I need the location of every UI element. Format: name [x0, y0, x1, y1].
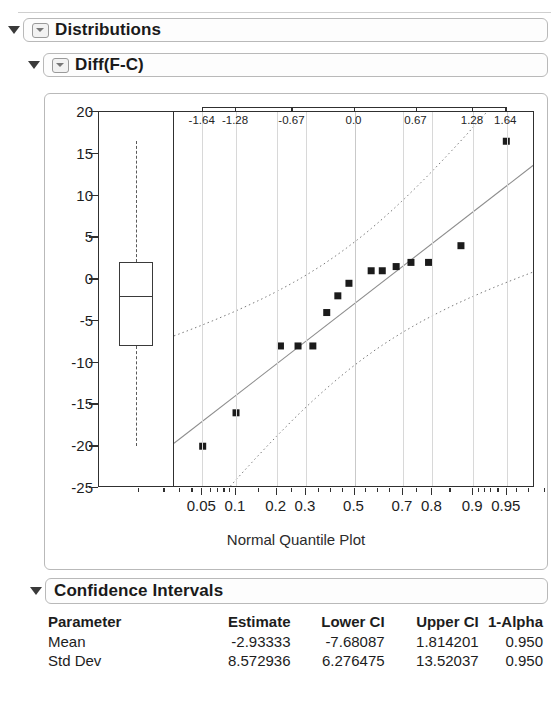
bottom-axis-minor-tick	[210, 488, 211, 492]
data-point[interactable]	[457, 242, 464, 249]
bottom-axis-tick-label: 0.1	[224, 497, 245, 514]
y-axis-tick-mark	[89, 320, 98, 321]
vertical-gridline	[236, 112, 237, 486]
bottom-axis-tick-label: 0.7	[392, 497, 413, 514]
bottom-axis-major-tick	[506, 488, 507, 495]
top-axis-tick-label: 1.64	[494, 114, 516, 126]
y-axis-tick-label: -20	[49, 437, 93, 454]
bottom-axis-minor-tick	[138, 488, 139, 492]
bottom-axis-minor-tick	[478, 488, 479, 492]
y-axis-tick-label: 10	[49, 186, 93, 203]
quantile-scatter-area	[174, 112, 533, 486]
data-point[interactable]	[393, 263, 400, 270]
cell-1-alpha: 0.950	[479, 632, 543, 651]
bottom-axis-minor-tick	[449, 488, 450, 492]
col-1-alpha: 1-Alpha	[479, 612, 543, 632]
col-estimate: Estimate	[197, 612, 291, 632]
cell-lower-ci: 6.276475	[291, 651, 385, 670]
vertical-gridline	[277, 112, 278, 486]
bottom-axis-major-tick	[235, 488, 236, 495]
cell-upper-ci: 1.814201	[385, 632, 479, 651]
y-axis-tick-mark	[89, 278, 98, 279]
bottom-axis-minor-tick	[484, 488, 485, 492]
boxplot-median-line	[119, 296, 153, 297]
top-axis-tick-label: 0.0	[346, 114, 362, 126]
vertical-gridline	[432, 112, 433, 486]
bottom-axis-major-tick	[402, 488, 403, 495]
diff-title-panel[interactable]: Diff(F-C)	[43, 53, 548, 77]
data-point[interactable]	[407, 259, 414, 266]
normal-quantile-top-axis	[142, 101, 520, 111]
bottom-axis-tick-label: 0.95	[491, 497, 520, 514]
red-triangle-menu-icon[interactable]	[52, 58, 69, 73]
data-point[interactable]	[323, 309, 330, 316]
data-point[interactable]	[334, 292, 341, 299]
bottom-axis-minor-tick	[516, 488, 517, 492]
bottom-axis-minor-tick	[291, 488, 292, 492]
top-axis-tick-label: -1.64	[189, 114, 215, 126]
disclosure-triangle-icon[interactable]	[8, 26, 20, 34]
y-axis-tick-mark	[89, 487, 98, 488]
probability-bottom-axis: 0.050.10.20.30.50.70.80.90.95	[173, 488, 534, 518]
outline-node-confidence-intervals[interactable]: Confidence Intervals	[30, 578, 548, 604]
bottom-axis-minor-tick	[342, 488, 343, 492]
vertical-gridline	[355, 112, 356, 486]
vertical-gridline	[202, 112, 203, 486]
data-point[interactable]	[379, 267, 386, 274]
disclosure-triangle-icon[interactable]	[28, 61, 40, 69]
bottom-axis-minor-tick	[389, 488, 390, 492]
boxplot-upper-whisker	[136, 141, 137, 262]
boxplot	[99, 112, 173, 487]
y-axis-tick-label: 5	[49, 228, 93, 245]
vertical-gridline	[403, 112, 404, 486]
cell-upper-ci: 13.52037	[385, 651, 479, 670]
distributions-label: Distributions	[55, 20, 161, 40]
bottom-axis-tick-label: 0.8	[421, 497, 442, 514]
vertical-gridline	[473, 112, 474, 486]
normal-quantile-plot-container: 0.050.10.20.30.50.70.80.90.95 Normal Qua…	[44, 93, 548, 570]
data-point[interactable]	[425, 259, 432, 266]
bottom-axis-minor-tick	[223, 488, 224, 492]
boxplot-box	[119, 262, 153, 346]
outline-node-distributions[interactable]: Distributions	[8, 18, 548, 42]
bottom-axis-tick-label: 0.5	[343, 497, 364, 514]
data-point[interactable]	[368, 267, 375, 274]
distributions-title-panel[interactable]: Distributions	[23, 18, 548, 42]
data-point[interactable]	[277, 342, 284, 349]
data-point[interactable]	[309, 342, 316, 349]
table-row: Mean -2.93333 -7.68087 1.814201 0.950	[48, 632, 543, 651]
y-axis-tick-mark	[89, 403, 98, 404]
data-point[interactable]	[345, 280, 352, 287]
cell-parameter: Mean	[48, 632, 197, 651]
plot-caption: Normal Quantile Plot	[45, 531, 547, 548]
confidence-intervals-label: Confidence Intervals	[54, 581, 223, 601]
y-axis-tick-label: -15	[49, 395, 93, 412]
bottom-axis-minor-tick	[416, 488, 417, 492]
bottom-axis-minor-tick	[497, 488, 498, 492]
top-axis-tick-label: -0.67	[278, 114, 304, 126]
bottom-axis-minor-tick	[217, 488, 218, 492]
y-axis-tick-mark	[89, 445, 98, 446]
bottom-axis-minor-tick	[377, 488, 378, 492]
outline-node-diff[interactable]: Diff(F-C)	[28, 53, 548, 77]
bottom-axis-minor-tick	[544, 488, 545, 492]
bottom-axis-minor-tick	[229, 488, 230, 492]
bottom-axis-tick-label: 0.9	[462, 497, 483, 514]
bottom-axis-tick-label: 0.2	[265, 497, 286, 514]
y-axis-tick-mark	[89, 362, 98, 363]
data-point[interactable]	[295, 342, 302, 349]
table-header-row: Parameter Estimate Lower CI Upper CI 1-A…	[48, 612, 543, 632]
y-axis-tick-mark	[89, 153, 98, 154]
vertical-gridline	[507, 112, 508, 486]
bottom-axis-minor-tick	[179, 488, 180, 492]
disclosure-triangle-icon[interactable]	[30, 587, 42, 595]
y-axis-tick-label: -10	[49, 353, 93, 370]
y-axis-tick-mark	[89, 236, 98, 237]
confidence-intervals-title-panel[interactable]: Confidence Intervals	[45, 578, 548, 604]
bottom-axis-major-tick	[354, 488, 355, 495]
top-axis-tick-label: 0.67	[404, 114, 426, 126]
bottom-axis-minor-tick	[528, 488, 529, 492]
diff-label: Diff(F-C)	[75, 55, 144, 75]
top-axis-tick-label: 1.28	[461, 114, 483, 126]
red-triangle-menu-icon[interactable]	[32, 23, 49, 38]
